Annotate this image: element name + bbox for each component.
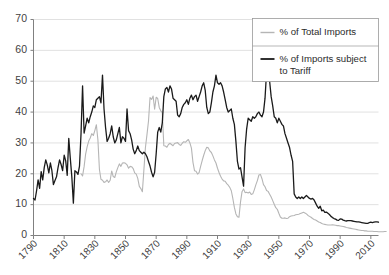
y-tick-label: 0 (21, 228, 27, 240)
x-tick-label: 1930 (231, 237, 255, 261)
y-axis-tick-labels: 010203040506070 (15, 12, 27, 240)
tariff-line-chart: 010203040506070 179018101830185018701890… (0, 0, 389, 275)
x-tick-label: 1850 (108, 237, 132, 261)
x-axis-tick-labels: 1790181018301850187018901910193019501970… (16, 237, 377, 261)
legend-label-imports-subject-to-tariff: % of Imports subject (280, 53, 367, 64)
chart-canvas: 010203040506070 179018101830185018701890… (0, 0, 389, 275)
x-tick-label: 1830 (77, 237, 101, 261)
legend-label-imports-subject-to-tariff-line2: to Tariff (280, 65, 311, 76)
x-tick-label: 1910 (200, 237, 224, 261)
x-tick-label: 1890 (169, 237, 193, 261)
y-tick-label: 20 (15, 167, 27, 179)
x-tick-label: 1970 (292, 237, 316, 261)
chart-legend: % of Total Imports% of Imports subjectto… (253, 19, 379, 82)
y-tick-label: 50 (15, 74, 27, 86)
legend-label-total-imports: % of Total Imports (280, 26, 357, 37)
x-tick-label: 2010 (353, 237, 377, 261)
x-tick-label: 1790 (16, 237, 40, 261)
x-tick-label: 1950 (261, 237, 285, 261)
x-tick-label: 1810 (47, 237, 71, 261)
y-tick-label: 40 (15, 105, 27, 117)
x-tick-label: 1870 (139, 237, 163, 261)
y-tick-label: 10 (15, 197, 27, 209)
y-tick-label: 30 (15, 136, 27, 148)
x-tick-label: 1990 (323, 237, 347, 261)
y-tick-label: 70 (15, 12, 27, 24)
y-tick-label: 60 (15, 43, 27, 55)
